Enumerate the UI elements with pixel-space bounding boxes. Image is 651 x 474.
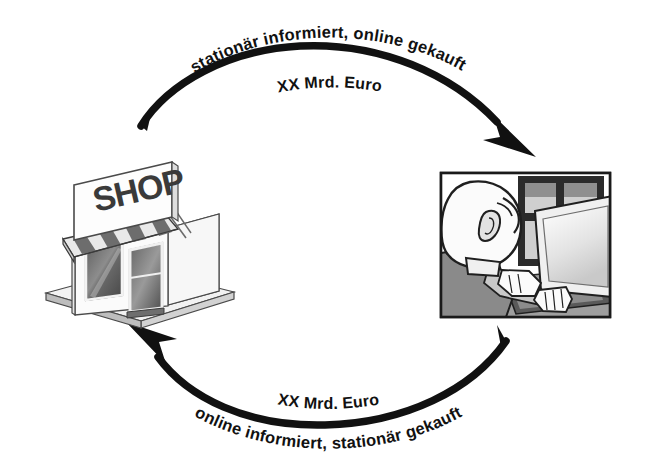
top-arrowhead xyxy=(483,115,536,157)
retail-shop-illustration: SHOP xyxy=(46,161,234,328)
online-shopper-illustration xyxy=(441,173,613,317)
shopper-neck xyxy=(466,258,500,276)
cycle-diagram: stationär informiert, online gekauft XX … xyxy=(0,0,651,474)
bottom-arrowhead xyxy=(126,322,177,364)
top-flow-value: XX Mrd. Euro xyxy=(276,73,383,95)
bottom-flow-value: XX Mrd. Euro xyxy=(277,390,381,411)
laptop-screen xyxy=(543,206,608,287)
diagram-canvas: stationär informiert, online gekauft XX … xyxy=(0,0,651,474)
